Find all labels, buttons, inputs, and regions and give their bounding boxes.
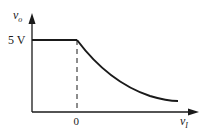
x-axis-label: vI bbox=[180, 114, 188, 130]
y-tick-label-5v: 5 V bbox=[8, 33, 26, 47]
y-axis-arrow-icon bbox=[29, 13, 36, 24]
x-axis-arrow-icon bbox=[188, 109, 199, 116]
decaying-curve bbox=[77, 40, 178, 101]
y-axis-label: vo bbox=[13, 8, 22, 24]
x-tick-label-0: 0 bbox=[74, 115, 80, 127]
chart: vo 5 V 0 vI bbox=[0, 0, 212, 132]
